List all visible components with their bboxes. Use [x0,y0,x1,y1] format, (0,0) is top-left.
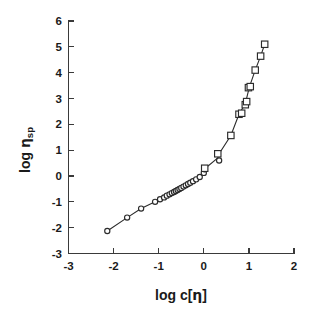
x-axis-title: log c[η] [155,287,207,303]
data-point-square [257,53,263,59]
data-point-square [261,41,267,47]
data-point-circle [152,199,157,204]
x-tick-label: -1 [154,260,165,272]
figure-container: -3-2-10123456 -3-2-1012 log ηsp log c[η] [0,0,313,318]
data-point-square [238,110,244,116]
data-point-circle [125,215,130,220]
y-tick-label: 4 [56,67,63,79]
data-point-square [228,132,234,138]
data-point-circle [217,158,222,163]
x-tick-label: 0 [201,260,207,272]
data-point-square [215,151,221,157]
x-tick-label: -3 [63,260,73,272]
y-tick-label: 1 [56,144,63,156]
x-tick-label: -2 [108,260,118,272]
y-tick-label: 0 [56,170,62,182]
y-tick-label: -2 [52,222,62,234]
y-tick-label: 2 [56,118,62,130]
data-point-circle [105,228,110,233]
y-tick-label: 5 [56,41,63,53]
data-point-circle [197,174,202,179]
x-axis-title-text: log c[η] [155,287,207,303]
y-tick-label: 6 [56,15,62,27]
x-tick-label: 2 [291,260,297,272]
data-point-square [202,165,208,171]
data-point-square [243,98,249,104]
data-point-square [252,67,258,73]
y-tick-label: 3 [56,93,62,105]
data-point-circle [139,206,144,211]
y-tick-label: -1 [52,196,63,208]
data-point-square [247,83,253,89]
x-tick-label: 1 [246,260,253,272]
scatter-plot: -3-2-10123456 -3-2-1012 log ηsp log c[η] [0,0,313,318]
y-tick-label: -3 [52,248,62,260]
